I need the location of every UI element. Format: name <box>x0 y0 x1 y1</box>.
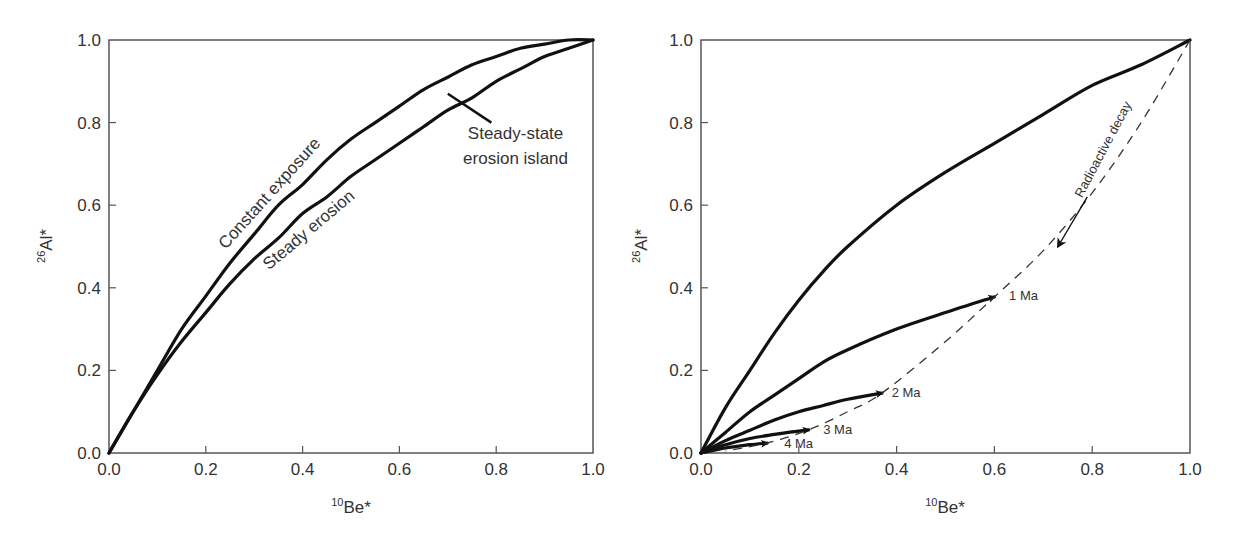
x-tick-label: 0.8 <box>1080 460 1104 479</box>
series-steady-erosion <box>109 40 593 453</box>
y-tick-label: 0.8 <box>77 114 101 133</box>
x-tick-label: 0.2 <box>787 460 811 479</box>
annotation-2-ma: 2 Ma <box>892 385 922 400</box>
y-tick-label: 0.6 <box>669 196 693 215</box>
series-group <box>109 40 593 453</box>
decay-arrow <box>1058 197 1087 247</box>
x-tick-label: 0.6 <box>388 460 412 479</box>
x-tick-label: 1.0 <box>1178 460 1202 479</box>
x-tick-label: 0.6 <box>983 460 1007 479</box>
annotation-1-ma: 1 Ma <box>1009 288 1039 303</box>
x-ticks: 0.00.20.40.60.81.0 <box>97 446 605 479</box>
y-tick-label: 0.8 <box>669 114 693 133</box>
annotation-radioactive-decay: Radioactive decay <box>1071 99 1134 200</box>
x-ticks: 0.00.20.40.60.81.0 <box>689 446 1202 479</box>
y-tick-label: 0.0 <box>77 444 101 463</box>
x-tick-label: 1.0 <box>581 460 605 479</box>
y-tick-label: 1.0 <box>77 31 101 50</box>
series-group <box>701 40 1190 453</box>
y-axis-label: 26Al* <box>35 229 56 263</box>
plot-frame <box>109 40 593 453</box>
x-axis-label: 10Be* <box>331 496 371 517</box>
annotation-3-ma: 3 Ma <box>823 422 853 437</box>
y-tick-label: 0.0 <box>669 444 693 463</box>
y-tick-label: 0.6 <box>77 196 101 215</box>
series-steady-erosion-0-ma <box>701 40 1190 453</box>
y-ticks: 0.00.20.40.60.81.0 <box>77 31 116 463</box>
annotations: 1 Ma2 Ma3 Ma4 MaRadioactive decay <box>784 99 1135 452</box>
y-tick-label: 1.0 <box>669 31 693 50</box>
x-axis-label: 10Be* <box>925 496 965 517</box>
y-tick-label: 0.4 <box>77 279 101 298</box>
annotation-erosion-island: erosion island <box>463 149 568 168</box>
x-tick-label: 0.8 <box>484 460 508 479</box>
x-tick-label: 0.2 <box>194 460 218 479</box>
annotation-4-ma: 4 Ma <box>784 436 814 451</box>
y-tick-label: 0.2 <box>669 361 693 380</box>
x-tick-label: 0.4 <box>291 460 315 479</box>
y-axis-label: 26Al* <box>630 229 651 263</box>
y-tick-label: 0.2 <box>77 361 101 380</box>
x-tick-label: 0.4 <box>885 460 909 479</box>
left-panel: 0.00.20.40.60.81.0 0.00.20.40.60.81.0 Co… <box>35 31 605 517</box>
plot-frame <box>701 40 1190 453</box>
annotation-steady-state: Steady-state <box>468 124 563 143</box>
chart-canvas: 0.00.20.40.60.81.0 0.00.20.40.60.81.0 Co… <box>0 0 1243 537</box>
y-tick-label: 0.4 <box>669 279 693 298</box>
right-panel: 0.00.20.40.60.81.0 0.00.20.40.60.81.0 1 … <box>630 31 1202 517</box>
y-ticks: 0.00.20.40.60.81.0 <box>669 31 708 463</box>
series-constant-exposure <box>109 40 593 453</box>
